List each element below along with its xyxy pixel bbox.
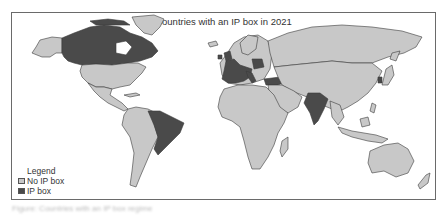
- swatch-ip-box-icon: [18, 188, 25, 194]
- country-canada-islands: [90, 19, 130, 25]
- country-ireland: [218, 55, 222, 59]
- map-frame: Countries with an IP box in 2021: [11, 12, 436, 200]
- country-russia: [268, 25, 422, 67]
- country-greenland: [132, 15, 164, 35]
- legend-item-no-ip-box: No IP box: [18, 176, 64, 186]
- country-indonesia: [338, 127, 388, 143]
- country-caribbean: [124, 93, 140, 97]
- country-new-zealand: [418, 173, 430, 189]
- country-poland: [252, 59, 264, 69]
- swatch-no-ip-box-icon: [18, 178, 25, 184]
- country-iceland: [208, 41, 218, 47]
- legend-item-ip-box: IP box: [18, 186, 64, 196]
- legend-label-no-ip-box: No IP box: [27, 176, 64, 186]
- country-india: [304, 93, 328, 125]
- country-australia: [368, 143, 414, 177]
- country-korea: [378, 77, 382, 83]
- map-legend: Legend No IP box IP box: [18, 166, 64, 196]
- country-madagascar: [280, 137, 288, 157]
- country-usa-alaska: [32, 37, 62, 57]
- legend-label-ip-box: IP box: [27, 186, 51, 196]
- figure-caption: Figure: Countries with an IP box regime: [12, 204, 152, 213]
- country-japan: [382, 65, 394, 85]
- legend-title: Legend: [18, 166, 64, 176]
- world-map: [12, 13, 437, 201]
